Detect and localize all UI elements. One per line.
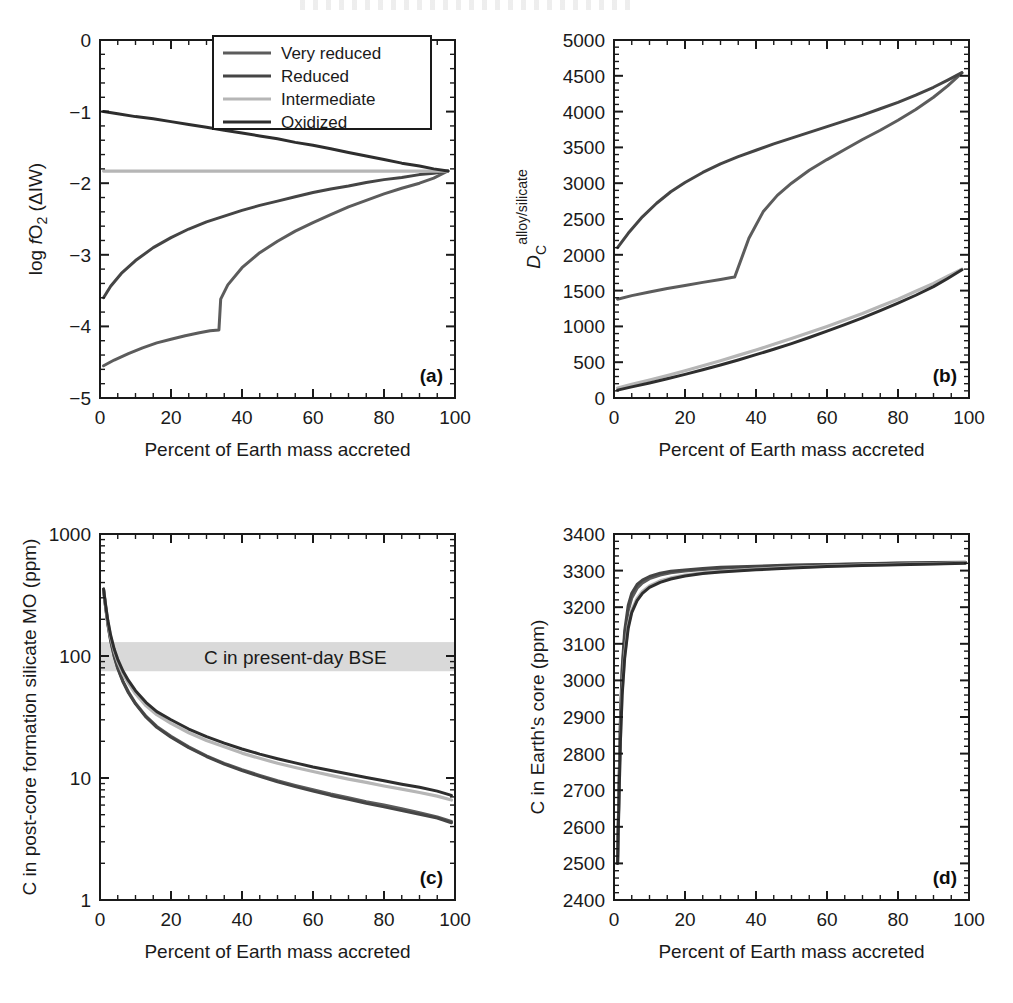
- x-tick-label: 100: [953, 909, 985, 930]
- y-tick-label: 3400: [563, 524, 605, 545]
- legend-label-oxidized: Oxidized: [281, 113, 347, 132]
- bse-band-label: C in present-day BSE: [204, 647, 387, 668]
- x-tick-label: 40: [231, 909, 252, 930]
- y-tick-label: 1000: [563, 316, 605, 337]
- y-tick-label: 3100: [563, 634, 605, 655]
- x-tick-label: 80: [373, 909, 394, 930]
- legend-label-very-reduced: Very reduced: [281, 44, 381, 63]
- panel-b-plot: 0204060801000500100015002000250030003500…: [508, 14, 1008, 494]
- figure-root: 0204060801000−1−2−3−4−5Percent of Earth …: [0, 0, 1013, 1003]
- legend-label-reduced: Reduced: [281, 67, 349, 86]
- x-tick-label: 0: [609, 909, 620, 930]
- series-intermediate: [618, 563, 966, 863]
- y-tick-label: 3000: [563, 173, 605, 194]
- x-tick-label: 80: [887, 909, 908, 930]
- x-tick-label: 100: [953, 407, 985, 428]
- x-tick-label: 0: [95, 407, 106, 428]
- x-tick-label: 0: [95, 909, 106, 930]
- x-tick-label: 60: [302, 909, 323, 930]
- panel-d-plot: 0204060801002400250026002700280029003000…: [508, 508, 1008, 998]
- y-tick-label: 1: [80, 890, 91, 911]
- x-tick-label: 20: [160, 407, 181, 428]
- y-tick-label: 3200: [563, 597, 605, 618]
- x-tick-label: 0: [609, 407, 620, 428]
- y-tick-label: 100: [59, 646, 91, 667]
- panel-letter: (d): [933, 867, 957, 888]
- y-tick-label: 4500: [563, 66, 605, 87]
- panel-a-plot: 0204060801000−1−2−3−4−5Percent of Earth …: [0, 14, 500, 494]
- y-axis-title: log fO2 (ΔIW): [25, 163, 50, 275]
- y-tick-label: −3: [69, 245, 91, 266]
- y-tick-label: 10: [70, 768, 91, 789]
- y-axis-title: DCalloy/silicate: [514, 169, 549, 269]
- series-reduced: [618, 73, 962, 248]
- y-tick-label: 1000: [49, 524, 91, 545]
- y-tick-label: 3300: [563, 561, 605, 582]
- panel-letter: (c): [420, 867, 443, 888]
- plot-frame: [614, 534, 969, 900]
- x-tick-label: 60: [816, 407, 837, 428]
- y-axis-title: C in post-core formation silicate MO (pp…: [19, 539, 40, 896]
- y-tick-label: 0: [594, 388, 605, 409]
- series-reduced: [618, 562, 966, 863]
- x-tick-label: 80: [373, 407, 394, 428]
- y-tick-label: −4: [69, 316, 91, 337]
- x-tick-label: 100: [439, 407, 471, 428]
- y-tick-label: 1500: [563, 281, 605, 302]
- series-very-reduced: [618, 563, 966, 864]
- series-very-reduced: [104, 590, 452, 822]
- y-tick-label: 2500: [563, 853, 605, 874]
- x-tick-label: 20: [674, 909, 695, 930]
- y-tick-label: 2600: [563, 817, 605, 838]
- y-tick-label: 2500: [563, 209, 605, 230]
- plot-frame: [100, 534, 455, 900]
- x-tick-label: 20: [160, 909, 181, 930]
- panel-c: C in present-day BSE02040608010011010010…: [0, 508, 500, 998]
- panel-a: 0204060801000−1−2−3−4−5Percent of Earth …: [0, 14, 500, 494]
- panel-letter: (b): [933, 365, 957, 386]
- x-tick-label: 100: [439, 909, 471, 930]
- y-axis-title: C in Earth's core (ppm): [527, 620, 548, 815]
- panel-d: 0204060801002400250026002700280029003000…: [508, 508, 1008, 998]
- y-tick-label: 500: [573, 352, 605, 373]
- series-very-reduced: [618, 73, 962, 299]
- x-tick-label: 60: [816, 909, 837, 930]
- scan-artifact-top: [300, 0, 630, 10]
- x-tick-label: 80: [887, 407, 908, 428]
- y-tick-label: 2700: [563, 780, 605, 801]
- x-tick-label: 60: [302, 407, 323, 428]
- series-intermediate: [104, 589, 452, 800]
- legend-label-intermediate: Intermediate: [281, 90, 376, 109]
- x-tick-label: 20: [674, 407, 695, 428]
- panel-letter: (a): [420, 365, 443, 386]
- series-oxidized: [618, 563, 966, 863]
- y-tick-label: −2: [69, 173, 91, 194]
- y-tick-label: 2400: [563, 890, 605, 911]
- x-axis-title: Percent of Earth mass accreted: [144, 941, 410, 962]
- y-tick-label: 0: [80, 30, 91, 51]
- x-tick-label: 40: [231, 407, 252, 428]
- y-tick-label: 2800: [563, 744, 605, 765]
- y-tick-label: −5: [69, 388, 91, 409]
- panel-b: 0204060801000500100015002000250030003500…: [508, 14, 1008, 494]
- panel-c-plot: C in present-day BSE02040608010011010010…: [0, 508, 500, 998]
- y-tick-label: 2000: [563, 245, 605, 266]
- y-tick-label: 3000: [563, 670, 605, 691]
- x-axis-title: Percent of Earth mass accreted: [658, 439, 924, 460]
- x-axis-title: Percent of Earth mass accreted: [658, 941, 924, 962]
- y-tick-label: −1: [69, 102, 91, 123]
- y-tick-label: 4000: [563, 102, 605, 123]
- x-tick-label: 40: [745, 407, 766, 428]
- y-tick-label: 5000: [563, 30, 605, 51]
- x-axis-title: Percent of Earth mass accreted: [144, 439, 410, 460]
- x-tick-label: 40: [745, 909, 766, 930]
- y-tick-label: 2900: [563, 707, 605, 728]
- y-tick-label: 3500: [563, 137, 605, 158]
